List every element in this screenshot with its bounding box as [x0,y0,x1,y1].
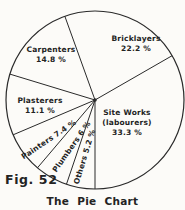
slice-label-line: 22.2 % [111,44,160,54]
slice-label-line: Plasterers [17,96,62,106]
slice-label-plasterers: Plasterers11.1 % [17,96,62,116]
slice-label-line: Bricklayers [111,34,160,44]
slice-label-line: 11.1 % [17,106,62,116]
slice-label-line: 33.3 % [102,128,152,138]
pie-chart-figure: Site Works(labourers)33.3 %Bricklayers22… [0,0,185,210]
slice-label-line: Carpenters [27,45,76,55]
chart-title: The Pie Chart [0,195,185,207]
slice-label-line: (labourers) [102,118,152,128]
slice-label-site-works: Site Works(labourers)33.3 % [102,108,152,138]
slice-label-carpenters: Carpenters14.8 % [27,45,76,65]
figure-number-label: Fig. 52 [5,172,57,187]
slice-label-line: Site Works [102,108,152,118]
slice-label-bricklayers: Bricklayers22.2 % [111,34,160,54]
slice-label-line: 14.8 % [27,55,76,65]
